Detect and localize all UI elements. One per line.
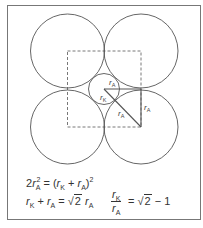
eq2-plus: + xyxy=(34,195,47,207)
eq3-sqrt: √2 xyxy=(137,196,151,207)
eq1-sup-2b: 2 xyxy=(89,176,93,183)
eq3-den-sub: A xyxy=(116,209,121,216)
eq3-fraction: rK rA xyxy=(111,189,121,214)
eq3-numerator: rK xyxy=(111,189,121,202)
eq3-denominator: rA xyxy=(111,202,121,214)
eq2-sub-a2: A xyxy=(89,202,94,209)
eq3-equals: = xyxy=(128,195,137,207)
sqrt-icon: √ xyxy=(68,195,74,207)
eq3-rhs: = √2 − 1 xyxy=(128,196,170,207)
label-diagonal-ra: rA xyxy=(118,109,125,119)
eq1-plus: + xyxy=(65,177,78,189)
eq1-equals: = ( xyxy=(40,177,56,189)
equation-2: rK + rA = √2 rA xyxy=(26,196,93,207)
eq3-num-sub: K xyxy=(116,195,121,202)
label-horizontal-ra: rA xyxy=(109,78,116,88)
eq2-equals: = xyxy=(55,195,68,207)
eq2-sqrt: √2 xyxy=(68,196,82,207)
eq2-ra2: r xyxy=(82,195,89,207)
equation-1: 2rA2 = (rK + rA)2 xyxy=(26,178,93,189)
sqrt-icon: √ xyxy=(137,195,143,207)
eq3-sqrt-val: 2 xyxy=(144,194,152,207)
eq3-minus: − 1 xyxy=(152,195,171,207)
close-packing-diagram: rA rK rA rA xyxy=(0,0,203,228)
label-small-rk: rK xyxy=(100,93,107,103)
label-vertical-ra: rA xyxy=(144,103,151,113)
eq2-sqrt-val: 2 xyxy=(74,194,82,207)
